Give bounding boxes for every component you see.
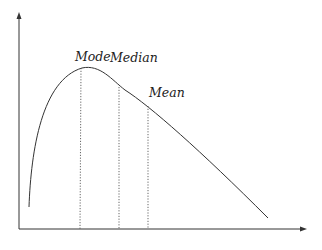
skewed-distribution-diagram: Mode Median Mean — [0, 0, 322, 250]
median-label: Median — [109, 50, 158, 65]
y-axis-arrow-icon — [17, 12, 22, 19]
mode-line — [80, 68, 81, 229]
mode-label: Mode — [74, 49, 111, 64]
x-axis-arrow-icon — [300, 227, 307, 232]
mean-label: Mean — [148, 85, 185, 100]
